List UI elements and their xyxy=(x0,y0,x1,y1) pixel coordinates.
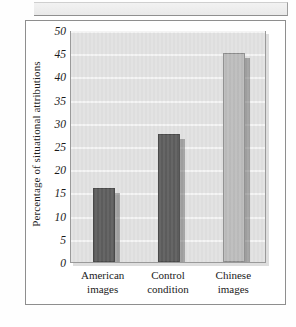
bar-chart: Percentage of situational attributions 0… xyxy=(0,0,296,327)
x-tick-label-line: images xyxy=(187,282,279,296)
x-tick-label: Chineseimages xyxy=(187,268,279,296)
bar-fill xyxy=(158,134,180,262)
x-tick-label-line: Chinese xyxy=(187,268,279,282)
bar-fill xyxy=(93,188,115,262)
y-tick-label: 50 xyxy=(6,25,66,37)
y-tick-label: 25 xyxy=(6,141,66,153)
plot-area xyxy=(70,31,266,263)
y-axis-tick-labels: 05101520253035404550 xyxy=(4,31,66,263)
y-tick-label: 30 xyxy=(6,118,66,130)
y-tick-label: 15 xyxy=(6,187,66,199)
y-tick-label: 20 xyxy=(6,164,66,176)
y-tick-label: 35 xyxy=(6,95,66,107)
y-tick-label: 40 xyxy=(6,71,66,83)
bar xyxy=(93,188,115,262)
y-tick-label: 45 xyxy=(6,48,66,60)
bar-fill xyxy=(223,53,245,262)
y-tick-label: 10 xyxy=(6,211,66,223)
gridline xyxy=(71,31,265,33)
figure-page: Percentage of situational attributions 0… xyxy=(0,0,296,327)
y-tick-label: 5 xyxy=(6,234,66,246)
x-axis-tick-labels: AmericanimagesControlconditionChineseima… xyxy=(70,268,266,310)
bar xyxy=(223,53,245,262)
bar xyxy=(158,134,180,262)
